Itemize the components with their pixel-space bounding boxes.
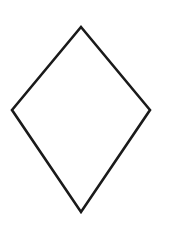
kite-shape-svg [0,0,169,227]
drawing-canvas [0,0,169,227]
